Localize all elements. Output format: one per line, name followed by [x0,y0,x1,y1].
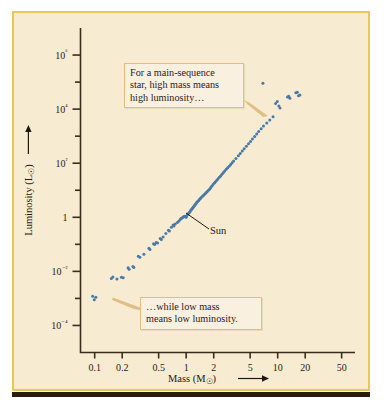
data-point [142,253,145,256]
data-point [111,275,114,278]
x-tick-label: 0.5 [152,362,165,373]
x-tick-label: 5 [248,362,253,373]
data-point [268,118,271,121]
y-tick-label: 10⁴ [55,103,68,115]
svg-text:Luminosity (L☉): Luminosity (L☉) [23,164,36,236]
data-point [288,97,291,100]
data-point [138,256,141,259]
data-point [164,232,167,235]
data-point [296,91,299,94]
scatter-plot: 10⁶10⁴10²110⁻²10⁻⁴ 0.10.20.5125102050 Ma… [0,0,385,411]
x-axis-title: Mass (M☉) [168,373,269,386]
callout-high-line3: high luminosity… [130,92,238,104]
data-point [247,142,250,145]
data-point [160,238,163,241]
callout-leader-lines [112,100,268,310]
data-point [278,107,281,110]
data-point [128,268,131,271]
callout-low-line1: …while low mass [146,301,256,313]
data-point [132,266,135,269]
data-point [245,145,248,148]
data-point [249,140,252,143]
data-point [255,133,258,136]
data-point [251,137,254,140]
callout-high-line2: star, high mass means [130,79,238,91]
data-point [232,160,235,163]
x-tick-label: 0.1 [88,362,101,373]
y-axis-ticks [73,55,81,325]
data-point [148,248,151,251]
data-point [261,82,264,85]
data-point [122,276,125,279]
data-point [234,157,237,160]
data-point [265,121,268,124]
callout-low-line2: means low luminosity. [146,313,256,325]
x-axis-ticks [95,353,342,359]
data-point [93,298,96,301]
data-point [272,115,275,118]
y-tick-label: 10² [56,157,68,169]
sun-leader-line [186,213,209,229]
y-tick-label: 1 [63,212,68,223]
data-point [262,124,265,127]
y-axis-title: Luminosity (L☉) [23,125,36,236]
leader-line-low [112,298,140,311]
data-point [156,242,159,245]
callout-high-mass: For a main-sequence star, high mass mean… [124,63,244,108]
x-axis-tick-labels: 0.10.20.5125102050 [88,362,346,373]
data-point [115,278,118,281]
y-tick-label: 10⁶ [55,48,67,60]
callout-high-line1: For a main-sequence [130,67,238,79]
data-point [91,295,94,298]
data-point [257,130,260,133]
data-point [243,147,246,150]
x-tick-label: 1 [184,362,189,373]
x-tick-label: 50 [337,362,347,373]
data-point [298,94,301,97]
data-point [168,230,171,233]
sun-annotation-label: Sun [210,225,226,236]
data-point [276,100,279,103]
callout-low-mass: …while low mass means low luminosity. [140,297,262,330]
x-tick-label: 10 [273,362,283,373]
x-tick-label: 0.2 [116,362,129,373]
data-points [91,82,301,301]
figure-container: 10⁶10⁴10²110⁻²10⁻⁴ 0.10.20.5125102050 Ma… [0,0,385,411]
data-point [253,135,256,138]
y-tick-label: 10⁻² [52,265,68,277]
data-point [239,152,242,155]
x-tick-label: 20 [300,362,310,373]
svg-text:Mass (M☉): Mass (M☉) [168,373,217,386]
data-point [260,127,263,130]
leader-line-high [244,100,268,117]
x-tick-label: 2 [211,362,216,373]
data-point [162,236,165,239]
y-tick-label: 10⁻⁴ [51,319,68,331]
y-axis-tick-labels: 10⁶10⁴10²110⁻²10⁻⁴ [51,48,68,331]
